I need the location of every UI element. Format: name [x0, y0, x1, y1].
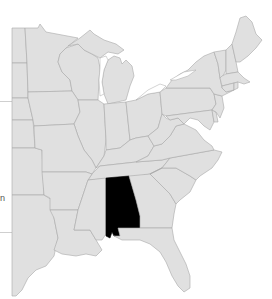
state-sd[interactable] [12, 63, 28, 98]
state-me[interactable] [232, 16, 262, 62]
state-nd[interactable] [12, 28, 27, 63]
state-ri[interactable] [234, 82, 238, 90]
state-ks[interactable] [12, 120, 35, 148]
state-ia[interactable] [28, 91, 80, 126]
state-fl[interactable] [114, 228, 190, 292]
eastern-us-map: n [0, 0, 272, 299]
state-ok[interactable] [12, 148, 44, 195]
map-canvas [0, 0, 272, 299]
